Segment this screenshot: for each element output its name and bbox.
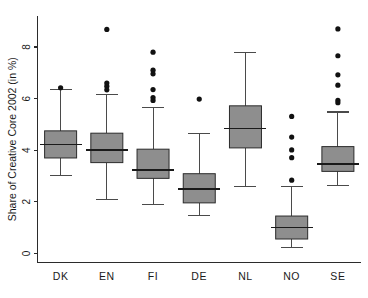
x-axis-tick-label-no: NO — [283, 270, 300, 282]
outlier-point — [289, 134, 294, 139]
boxplot-svg: 02468Share of Creative Core 2002 (in %)D… — [0, 0, 368, 298]
box-iqr — [137, 149, 169, 178]
boxplot-group-en — [86, 27, 128, 200]
boxplot-group-se — [317, 26, 359, 185]
outlier-point — [289, 147, 294, 152]
y-axis-tick-label: 2 — [21, 199, 32, 205]
boxplot-group-de — [178, 97, 220, 216]
boxplot-group-no — [271, 114, 313, 248]
boxplot-group-fi — [132, 50, 174, 205]
x-axis-tick-label-fi: FI — [148, 270, 159, 282]
outlier-point — [335, 83, 340, 88]
outlier-point — [104, 87, 109, 92]
boxplot-group-dk — [40, 85, 82, 175]
outlier-point — [335, 26, 340, 31]
box-iqr — [322, 147, 354, 172]
outlier-point — [150, 87, 155, 92]
y-axis-tick-label: 0 — [21, 250, 32, 256]
x-axis-tick-label-se: SE — [330, 270, 345, 282]
outlier-point — [289, 155, 294, 160]
outlier-point — [289, 114, 294, 119]
y-axis-tick-label: 8 — [21, 44, 32, 50]
x-axis-tick-label-en: EN — [99, 270, 115, 282]
outlier-point — [335, 72, 340, 77]
outlier-point — [150, 98, 155, 103]
outlier-point — [58, 85, 63, 90]
outlier-point — [335, 100, 340, 105]
y-axis-tick-label: 4 — [21, 147, 32, 153]
outlier-point — [150, 71, 155, 76]
box-iqr — [229, 106, 261, 148]
outlier-point — [335, 53, 340, 58]
boxplot-figure: 02468Share of Creative Core 2002 (in %)D… — [0, 0, 368, 298]
x-axis-tick-label-nl: NL — [238, 270, 253, 282]
y-axis-title: Share of Creative Core 2002 (in %) — [6, 57, 18, 221]
outlier-point — [197, 97, 202, 102]
box-iqr — [91, 133, 123, 162]
outlier-point — [104, 27, 109, 32]
x-axis-tick-label-de: DE — [191, 270, 207, 282]
outlier-point — [150, 50, 155, 55]
boxplot-group-nl — [224, 52, 266, 186]
y-axis-tick-label: 6 — [21, 95, 32, 101]
outlier-point — [289, 178, 294, 183]
x-axis-tick-label-dk: DK — [53, 270, 69, 282]
